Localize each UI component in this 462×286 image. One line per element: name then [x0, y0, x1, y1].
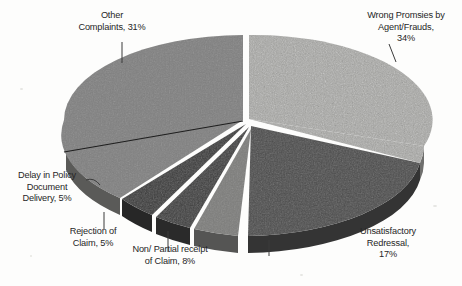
pie-label-wrong-promises: Wrong Promsies by Agent/Frauds, 34%	[352, 10, 460, 45]
scan-speck	[433, 205, 437, 207]
pie-label-unsatisfactory-redressal: Unsatisfactory Redressal, 17%	[336, 226, 440, 261]
pie-label-rejection-of-claim: Rejection of Claim, 5%	[54, 226, 132, 249]
scan-speck	[20, 88, 23, 90]
pie-label-other-complaints: Other Complaints, 31%	[58, 10, 166, 33]
pie-chart-figure: Other Complaints, 31% Wrong Promsies by …	[0, 0, 462, 286]
scan-speck	[30, 255, 32, 257]
scan-speck	[300, 274, 303, 276]
pie-label-delay-in-policy-document: Delay in Policy Document Delivery, 5%	[0, 170, 94, 205]
